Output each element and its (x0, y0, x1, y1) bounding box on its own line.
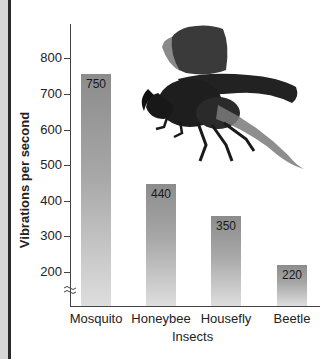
flying-beetle-icon (128, 15, 328, 175)
y-axis (70, 24, 71, 307)
y-tick-label: 200 (40, 264, 62, 279)
y-tick (64, 236, 70, 237)
bar-housefly: 350 (211, 216, 241, 306)
x-axis (70, 306, 320, 307)
y-tick (64, 94, 70, 95)
y-tick-label: 500 (40, 157, 62, 172)
y-tick-label: 800 (40, 50, 62, 65)
y-tick (64, 201, 70, 202)
y-tick-label: 300 (40, 228, 62, 243)
bar-value-label: 350 (211, 219, 241, 233)
x-category-label: Beetle (252, 311, 332, 326)
y-tick-label: 600 (40, 122, 62, 137)
y-tick-label: 700 (40, 86, 62, 101)
y-tick (64, 130, 70, 131)
bar-beetle: 220 (277, 265, 307, 306)
axis-break-icon (63, 284, 77, 296)
bar-honeybee: 440 (146, 184, 176, 306)
y-tick (64, 58, 70, 59)
bar-mosquito: 750 (81, 74, 111, 306)
y-axis-title: Vibrations per second (17, 112, 32, 248)
y-tick-label: 400 (40, 193, 62, 208)
bar-value-label: 440 (146, 187, 176, 201)
bar-chart: Vibrations per second 800 700 600 500 40… (0, 0, 334, 359)
x-axis-title: Insects (172, 329, 213, 344)
bar-value-label: 220 (277, 268, 307, 282)
y-tick (64, 165, 70, 166)
y-tick (64, 272, 70, 273)
bar-value-label: 750 (81, 77, 111, 91)
